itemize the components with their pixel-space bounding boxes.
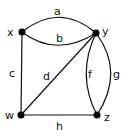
edge-label-f: f	[88, 68, 93, 81]
edge-g	[96, 33, 111, 115]
edge-label-a: a	[54, 5, 61, 18]
vertex-y	[93, 30, 100, 37]
edge-label-h: h	[56, 120, 63, 133]
vertex-label-z: z	[104, 111, 110, 124]
graph-diagram: x y w z a b c d f g h	[0, 0, 126, 138]
vertex-label-y: y	[102, 25, 109, 38]
vertex-label-w: w	[5, 109, 14, 122]
vertex-x	[19, 29, 26, 36]
edge-label-b: b	[56, 32, 63, 45]
vertex-w	[18, 112, 25, 119]
edge-label-g: g	[113, 68, 120, 81]
edge-label-d: d	[43, 70, 50, 83]
vertex-z	[94, 112, 101, 119]
edge-label-c: c	[9, 67, 15, 80]
edge-c	[21, 32, 22, 115]
vertex-label-x: x	[7, 26, 14, 39]
edge-a	[22, 17, 96, 33]
